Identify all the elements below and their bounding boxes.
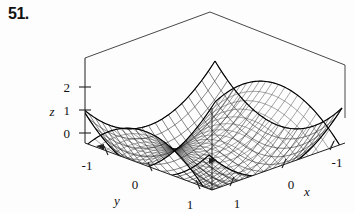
surface-plot: 2 1 0 z -1 0 1 y 1 0 -1 x bbox=[0, 0, 355, 213]
mesh-line bbox=[107, 85, 240, 153]
x-tick-label-minus1: -1 bbox=[332, 155, 343, 170]
mesh-line bbox=[82, 61, 215, 129]
y-tick-label-minus1: -1 bbox=[82, 158, 93, 173]
z-tick-label-1: 1 bbox=[64, 103, 71, 118]
z-axis-label: z bbox=[48, 104, 54, 119]
z-tick-label-0: 0 bbox=[64, 126, 71, 141]
mesh-line bbox=[155, 123, 282, 191]
x-tick-mark-minus1 bbox=[330, 141, 334, 150]
mesh-line bbox=[202, 101, 329, 169]
x-tick-label-0: 0 bbox=[288, 177, 295, 192]
mesh-line bbox=[102, 142, 229, 210]
mesh-line bbox=[158, 129, 291, 197]
mesh-line bbox=[203, 113, 336, 181]
y-axis-label: y bbox=[112, 193, 120, 208]
x-tick-label-1: 1 bbox=[234, 196, 241, 211]
y-tick-label-0: 0 bbox=[132, 177, 139, 192]
mesh-line bbox=[107, 97, 240, 165]
mesh-line bbox=[133, 81, 266, 149]
z-tick-label-2: 2 bbox=[64, 80, 71, 95]
y-tick-label-1: 1 bbox=[187, 197, 194, 212]
figure-container: 51. bbox=[0, 0, 355, 213]
surface-boundary-curve bbox=[82, 61, 215, 129]
x-axis-label: x bbox=[303, 184, 310, 199]
